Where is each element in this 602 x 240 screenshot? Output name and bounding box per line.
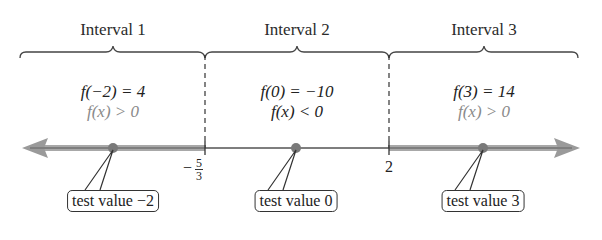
interval-2-sign: f(x) < 0 xyxy=(271,102,323,122)
boundary-label-neg-5-3-minus: − xyxy=(183,159,192,177)
interval-3-title: Interval 3 xyxy=(451,20,517,40)
interval-braces xyxy=(20,46,578,58)
interval-3-sign: f(x) > 0 xyxy=(458,102,510,122)
interval-1-sign: f(x) > 0 xyxy=(87,102,139,122)
boundary-label-2: 2 xyxy=(385,158,393,176)
interval-1-title: Interval 1 xyxy=(80,20,146,40)
boundary-label-neg-5-3-fraction: 5 3 xyxy=(195,157,203,182)
interval-2-title: Interval 2 xyxy=(264,20,330,40)
brace-interval-2 xyxy=(205,46,389,58)
brace-interval-1 xyxy=(20,46,205,58)
callout-test-value-neg-2: test value −2 xyxy=(67,190,159,212)
interval-3-evaluation: f(3) = 14 xyxy=(453,82,515,102)
interval-2-evaluation: f(0) = −10 xyxy=(261,82,334,102)
fraction-denominator: 3 xyxy=(195,170,203,182)
callout-pointers xyxy=(85,150,483,190)
brace-interval-3 xyxy=(389,46,578,58)
callout-test-value-3: test value 3 xyxy=(442,190,525,212)
callout-test-value-0: test value 0 xyxy=(255,190,338,212)
interval-1-evaluation: f(−2) = 4 xyxy=(81,82,146,102)
